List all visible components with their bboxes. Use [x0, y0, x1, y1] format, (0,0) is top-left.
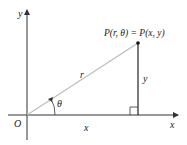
- horizontal-leg-label: x: [83, 122, 89, 133]
- angle-label: θ: [57, 98, 62, 109]
- y-axis-label: y: [17, 8, 23, 19]
- x-axis-label: x: [169, 119, 175, 130]
- origin-label: O: [14, 118, 21, 129]
- polar-coordinates-diagram: y x O P(r, θ) = P(x, y) r y x θ: [0, 0, 187, 145]
- point-label: P(r, θ) = P(x, y): [103, 28, 165, 39]
- vertical-leg-label: y: [142, 73, 148, 84]
- radius-label: r: [80, 69, 84, 80]
- right-angle-marker: [130, 107, 138, 115]
- point-p: [136, 41, 140, 45]
